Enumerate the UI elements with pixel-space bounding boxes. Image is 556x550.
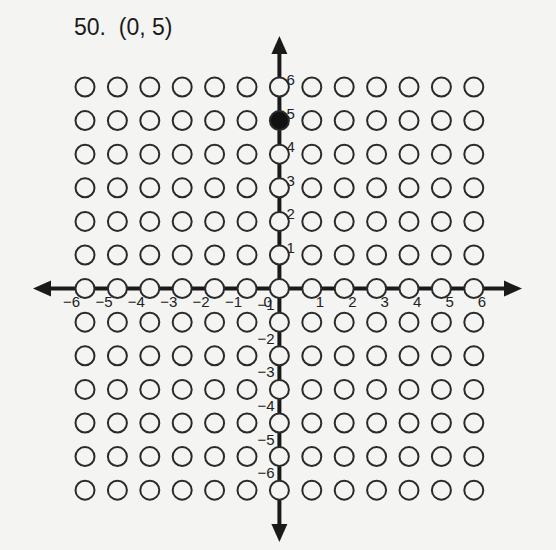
x-tick-label: −6 [63, 293, 80, 310]
grid-point [205, 178, 224, 197]
grid-point [205, 246, 224, 265]
grid-point [432, 78, 451, 97]
grid-point [464, 78, 483, 97]
grid-point [335, 212, 354, 231]
x-tick-label: 4 [413, 293, 421, 310]
grid-point [367, 447, 386, 466]
grid-point [108, 145, 127, 164]
grid-point [76, 78, 95, 97]
grid-point [238, 246, 257, 265]
grid-point [108, 414, 127, 433]
grid-point [302, 78, 321, 97]
grid-point [108, 346, 127, 365]
y-tick-label: −2 [257, 330, 274, 347]
grid-point [335, 447, 354, 466]
grid-point [464, 346, 483, 365]
grid-point [335, 78, 354, 97]
grid-point [173, 78, 192, 97]
y-tick-label: 2 [286, 205, 294, 222]
grid-point [205, 481, 224, 500]
grid-point [432, 212, 451, 231]
grid-point [205, 447, 224, 466]
grid-point [335, 246, 354, 265]
grid-point [205, 111, 224, 130]
grid-point [367, 246, 386, 265]
grid-point [464, 481, 483, 500]
grid-point [76, 145, 95, 164]
grid-point [302, 313, 321, 332]
grid-point [238, 380, 257, 399]
coordinate-grid: −6−5−4−3−2−10123456123456−1−2−3−4−5−6 [0, 0, 556, 550]
grid-point [238, 346, 257, 365]
grid-point [140, 447, 159, 466]
arrow-down-icon [271, 524, 287, 542]
grid-point [400, 481, 419, 500]
grid-point [76, 246, 95, 265]
grid-point [205, 145, 224, 164]
grid-point [335, 111, 354, 130]
arrow-right-icon [504, 281, 522, 297]
grid-point [400, 178, 419, 197]
grid-point [76, 178, 95, 197]
grid-point [400, 414, 419, 433]
grid-point [335, 178, 354, 197]
grid-point [140, 380, 159, 399]
grid-point [140, 414, 159, 433]
grid-point [432, 380, 451, 399]
grid-point [432, 447, 451, 466]
grid-point [238, 313, 257, 332]
grid-point [367, 178, 386, 197]
grid-point [335, 380, 354, 399]
grid-point [205, 78, 224, 97]
grid-point [400, 313, 419, 332]
grid-point [140, 78, 159, 97]
grid-point [432, 178, 451, 197]
grid-point [76, 212, 95, 231]
grid-point [173, 380, 192, 399]
grid-point [464, 178, 483, 197]
grid-point [464, 313, 483, 332]
grid-point [76, 447, 95, 466]
grid-point [432, 145, 451, 164]
grid-point [140, 111, 159, 130]
grid-point [205, 346, 224, 365]
grid-point [302, 414, 321, 433]
grid-point [76, 313, 95, 332]
grid-point [238, 212, 257, 231]
grid-point [367, 481, 386, 500]
grid-point [173, 145, 192, 164]
x-tick-label: 6 [478, 293, 486, 310]
arrow-left-icon [33, 281, 51, 297]
x-tick-label: 3 [381, 293, 389, 310]
grid-point [302, 481, 321, 500]
grid-point [400, 380, 419, 399]
grid-point [173, 481, 192, 500]
grid-point [302, 346, 321, 365]
grid-point [302, 178, 321, 197]
grid-point [432, 346, 451, 365]
x-tick-label: −3 [160, 293, 177, 310]
grid-point [140, 145, 159, 164]
y-tick-label: −1 [257, 296, 274, 313]
grid-point [173, 414, 192, 433]
grid-point [464, 145, 483, 164]
grid-point [335, 481, 354, 500]
grid-point [238, 447, 257, 466]
grid-point [302, 380, 321, 399]
grid-point [140, 481, 159, 500]
grid-point [173, 111, 192, 130]
grid-point [173, 447, 192, 466]
grid-point [432, 111, 451, 130]
grid-point [302, 111, 321, 130]
grid-point [400, 145, 419, 164]
y-tick-label: −5 [257, 431, 274, 448]
grid-point [238, 481, 257, 500]
grid-point [108, 380, 127, 399]
grid-point [205, 212, 224, 231]
y-tick-label: 5 [286, 105, 294, 122]
grid-point [432, 414, 451, 433]
grid-point [432, 481, 451, 500]
grid-point [205, 380, 224, 399]
grid-point [238, 78, 257, 97]
grid-point [367, 111, 386, 130]
